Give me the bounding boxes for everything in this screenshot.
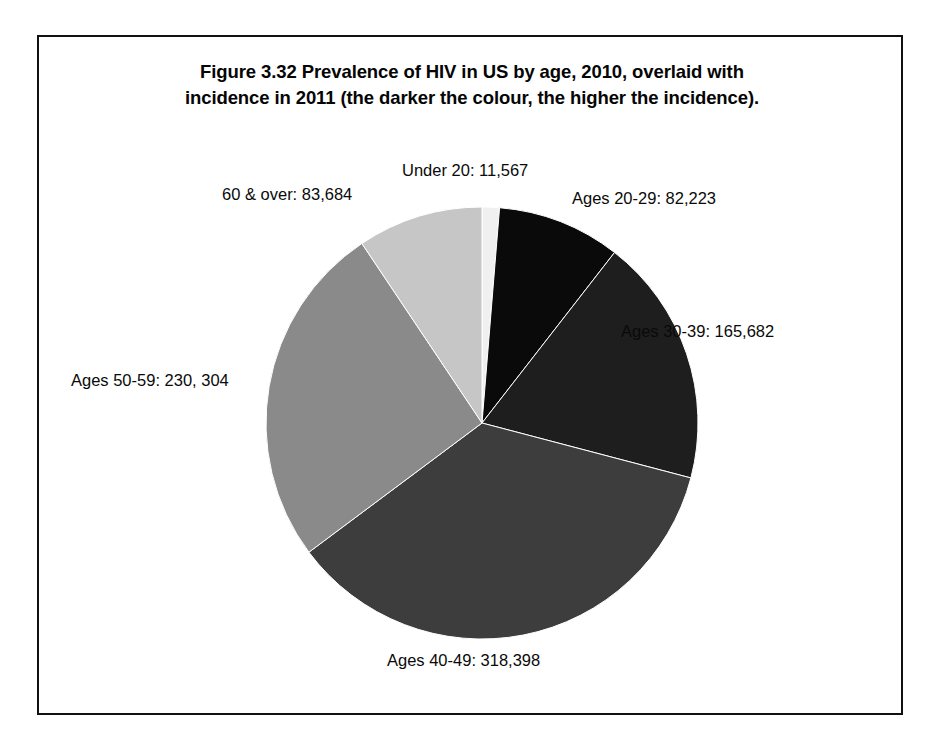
pie-chart: Under 20: 11,567 Ages 20-29: 82,223 Ages… — [39, 37, 905, 717]
pie-slice-group — [266, 207, 698, 639]
pie-label-ages-50-59: Ages 50-59: 230, 304 — [71, 371, 229, 390]
pie-label-ages-40-49: Ages 40-49: 318,398 — [387, 651, 540, 670]
pie-label-ages-20-29: Ages 20-29: 82,223 — [572, 189, 716, 208]
pie-label-60-and-over: 60 & over: 83,684 — [222, 185, 352, 204]
figure-frame: Figure 3.32 Prevalence of HIV in US by a… — [37, 35, 903, 715]
pie-label-under-20: Under 20: 11,567 — [402, 161, 528, 180]
pie-label-ages-30-39: Ages 30-39: 165,682 — [621, 322, 774, 341]
